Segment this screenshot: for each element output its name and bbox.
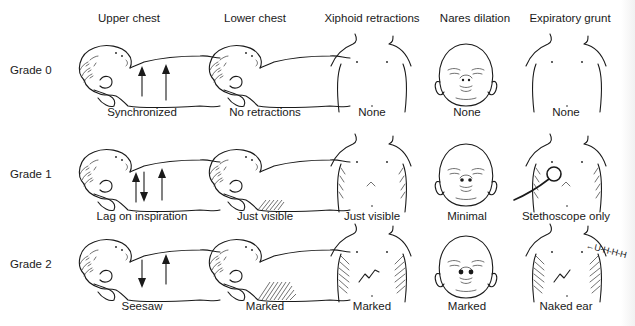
arrow-up-icon [132,172,140,202]
caption-lower-chest-grade-0: No retractions [205,106,325,118]
arrow-down-icon [138,260,146,288]
column-header-upper-chest: Upper chest [74,12,184,24]
retraction-hatch-icon [258,200,284,210]
column-header-lower-chest: Lower chest [200,12,310,24]
arrow-up-icon [162,254,170,284]
infant-side-profile-icon [70,140,220,215]
infant-face-front-icon [432,40,502,110]
infant-torso-front-icon [522,224,612,304]
row-label-grade-1: Grade 1 [10,168,52,180]
infant-face-front-icon [432,140,502,210]
infant-side-profile-icon [70,36,220,111]
caption-grunt-grade-0: None [506,106,626,118]
infant-side-profile-icon [70,230,220,305]
caption-grunt-grade-2: Naked ear [506,300,626,312]
arrow-down-icon [140,172,148,202]
arrow-up-icon [162,64,170,100]
caption-lower-chest-grade-2: Marked [205,300,325,312]
infant-torso-front-icon [522,134,612,214]
infant-torso-front-icon [327,224,417,304]
arrow-up-icon [138,66,146,96]
retraction-hatch-icon [258,282,296,300]
column-header-xiphoid: Xiphoid retractions [317,12,427,24]
caption-upper-chest-grade-2: Seesaw [82,300,202,312]
caption-lower-chest-grade-1: Just visible [205,210,325,222]
arrow-up-icon [158,168,166,200]
caption-upper-chest-grade-0: Synchronized [82,106,202,118]
row-label-grade-2: Grade 2 [10,258,52,270]
infant-torso-front-icon [522,34,612,114]
column-header-nares: Nares dilation [420,12,530,24]
stethoscope-icon [514,167,561,200]
infant-torso-front-icon [327,34,417,114]
page-edge-shading [621,0,635,326]
caption-grunt-grade-1: Stethoscope only [506,210,626,222]
caption-upper-chest-grade-1: Lag on inspiration [82,210,202,222]
infant-torso-front-icon [327,134,417,214]
row-label-grade-0: Grade 0 [10,64,52,76]
infant-face-front-icon [432,232,502,302]
column-header-grunt: Expiratory grunt [515,12,625,24]
